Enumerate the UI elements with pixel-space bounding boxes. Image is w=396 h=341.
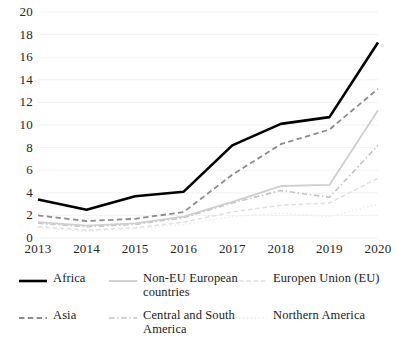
y-axis-tick-label: 8 bbox=[3, 141, 33, 154]
y-axis-tick-label: 18 bbox=[3, 28, 33, 41]
series-line-europen-union-eu bbox=[38, 178, 378, 230]
y-axis-tick-label: 4 bbox=[3, 186, 33, 199]
y-axis: 02468101214161820 bbox=[0, 0, 33, 265]
legend-swatch-asia bbox=[18, 310, 48, 323]
plot-canvas bbox=[0, 0, 385, 265]
plot-area bbox=[0, 0, 385, 265]
x-axis-tick-label: 2013 bbox=[16, 241, 60, 256]
legend-item-central-and-south-america[interactable]: Central and South America bbox=[108, 309, 235, 336]
legend-label-european-union: Europen Union (EU) bbox=[268, 272, 380, 286]
x-axis-tick-label: 2019 bbox=[307, 241, 351, 256]
legend-item-non-eu-european-countries[interactable]: Non-EU European countries bbox=[108, 272, 238, 299]
chart-legend: AfricaNon-EU European countriesEuropen U… bbox=[0, 266, 385, 341]
y-axis-tick-label: 20 bbox=[3, 5, 33, 18]
x-axis: 20132014201520162017201820192020 bbox=[38, 241, 378, 263]
legend-swatch-africa bbox=[18, 273, 48, 286]
legend-item-africa[interactable]: Africa bbox=[18, 272, 86, 286]
y-axis-tick-label: 10 bbox=[3, 118, 33, 131]
y-axis-tick-label: 12 bbox=[3, 95, 33, 108]
legend-swatch-european-union bbox=[238, 273, 268, 286]
legend-label-northern-america: Northern America bbox=[268, 309, 365, 323]
series-line-central-and-south-america bbox=[38, 145, 378, 226]
legend-label-asia: Asia bbox=[48, 309, 76, 323]
legend-item-asia[interactable]: Asia bbox=[18, 309, 76, 323]
x-axis-tick-label: 2018 bbox=[259, 241, 303, 256]
x-axis-tick-label: 2016 bbox=[162, 241, 206, 256]
legend-label-africa: Africa bbox=[48, 272, 86, 286]
series-line-asia bbox=[38, 89, 378, 221]
y-axis-tick-label: 16 bbox=[3, 50, 33, 63]
x-axis-tick-label: 2020 bbox=[356, 241, 396, 256]
x-axis-tick-label: 2017 bbox=[210, 241, 254, 256]
y-axis-tick-label: 2 bbox=[3, 208, 33, 221]
x-axis-tick-label: 2015 bbox=[113, 241, 157, 256]
legend-swatch-northern-america bbox=[238, 310, 268, 323]
legend-item-european-union[interactable]: Europen Union (EU) bbox=[238, 272, 380, 286]
y-axis-tick-label: 6 bbox=[3, 163, 33, 176]
legend-label-central-and-south-america: Central and South America bbox=[138, 309, 235, 336]
legend-swatch-non-eu-european-countries bbox=[108, 273, 138, 286]
y-axis-tick-label: 14 bbox=[3, 73, 33, 86]
legend-label-non-eu-european-countries: Non-EU European countries bbox=[138, 272, 238, 299]
x-axis-tick-label: 2014 bbox=[65, 241, 109, 256]
legend-item-northern-america[interactable]: Northern America bbox=[238, 309, 365, 323]
legend-swatch-central-and-south-america bbox=[108, 310, 138, 323]
